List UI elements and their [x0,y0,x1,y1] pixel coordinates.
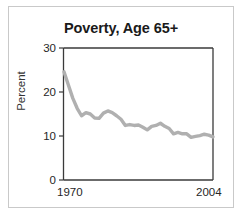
plot-area: 30 20 10 0 1970 2004 [0,0,242,216]
y-tick-label-0: 0 [50,174,56,186]
chart-figure: Poverty, Age 65+ Percent 30 20 10 0 1970… [0,0,242,216]
x-tick-label-1970: 1970 [57,186,83,198]
y-axis: 30 20 10 0 [43,42,63,186]
x-axis: 1970 2004 [57,48,222,198]
y-tick-label-20: 20 [43,86,56,98]
x-tick-label-2004: 2004 [196,186,222,198]
y-tick-label-30: 30 [43,42,56,54]
y-tick-label-10: 10 [43,130,56,142]
data-series-line [64,72,213,138]
